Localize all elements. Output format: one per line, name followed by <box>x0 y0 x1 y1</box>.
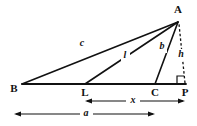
geometry-diagram: A B L C P c l b h x a <box>0 0 197 126</box>
side-label-b: b <box>160 40 165 51</box>
vertex-label-L: L <box>81 86 88 98</box>
dimension-x-arrowhead-right <box>178 98 185 103</box>
side-label-l: l <box>124 49 127 60</box>
dimension-a-arrowhead-left <box>14 111 21 116</box>
dimension-a: a <box>14 107 155 118</box>
dimension-x-label: x <box>130 94 136 105</box>
vertex-label-P: P <box>182 86 189 98</box>
right-angle-marker-at-P <box>177 76 184 83</box>
side-label-c: c <box>80 37 85 48</box>
vertex-label-C: C <box>151 86 159 98</box>
vertex-label-A: A <box>174 3 182 15</box>
side-label-h: h <box>178 48 184 59</box>
figure-canvas: A B L C P c l b h x a <box>0 0 197 126</box>
dimension-x-arrowhead-left <box>85 98 92 103</box>
dimension-x: x <box>85 94 185 105</box>
dimension-a-arrowhead-right <box>148 111 155 116</box>
dimension-a-label: a <box>84 107 89 118</box>
vertex-label-B: B <box>10 82 18 94</box>
